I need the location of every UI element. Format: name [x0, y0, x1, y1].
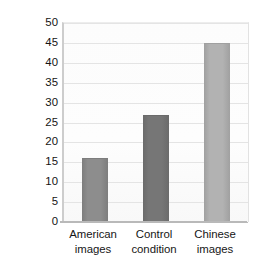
x-tick-label-line: images: [176, 242, 254, 257]
y-tick-label: 15: [34, 156, 58, 167]
bar: [82, 158, 108, 222]
x-tick-label-line: Chinese: [176, 227, 254, 242]
y-tick-label: 10: [34, 176, 58, 187]
x-axis-tick-labels: AmericanimagesControlconditionChineseima…: [60, 227, 248, 269]
bar: [143, 115, 169, 222]
bar-body: [143, 115, 169, 222]
bar: [204, 43, 230, 222]
bars-layer: [64, 23, 248, 222]
x-tick-label: Chineseimages: [176, 227, 254, 256]
plot-area: [62, 22, 249, 222]
y-tick-label: 5: [34, 196, 58, 207]
y-tick-label: 30: [34, 96, 58, 107]
y-tick-label: 40: [34, 56, 58, 67]
y-axis-tick-labels: 05101520253035404550: [34, 18, 58, 226]
bar-body: [204, 43, 230, 222]
x-axis-line: [60, 221, 247, 223]
bar-chart-figure: Percentage of situational attributions 0…: [0, 0, 268, 273]
y-tick-label: 35: [34, 76, 58, 87]
bar-body: [82, 158, 108, 222]
y-tick-label: 45: [34, 36, 58, 47]
y-tick-label: 20: [34, 136, 58, 147]
y-tick-label: 50: [34, 17, 58, 28]
y-tick-label: 25: [34, 116, 58, 127]
y-tick-label: 0: [34, 216, 58, 227]
